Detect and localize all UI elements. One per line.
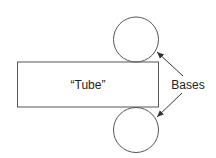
arrow-to-bottom-base xyxy=(157,93,182,117)
bottom-base-circle xyxy=(114,108,159,153)
top-base-circle xyxy=(114,17,159,62)
tube-label: “Tube” xyxy=(71,78,106,92)
arrow-to-top-base xyxy=(157,52,183,76)
cylinder-net-diagram: “Tube” Bases xyxy=(0,0,216,158)
bases-label: Bases xyxy=(171,78,204,92)
